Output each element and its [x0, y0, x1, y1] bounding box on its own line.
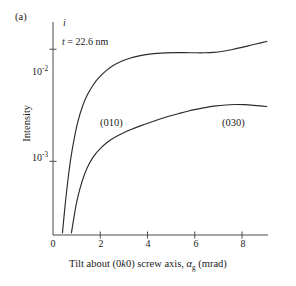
figure-panel-a: (a) i t = 22.6 nm Intensity Tilt about (… — [0, 0, 296, 286]
data-curve-010 — [62, 41, 266, 232]
plot-area — [0, 0, 296, 286]
data-curve-030 — [71, 105, 266, 233]
